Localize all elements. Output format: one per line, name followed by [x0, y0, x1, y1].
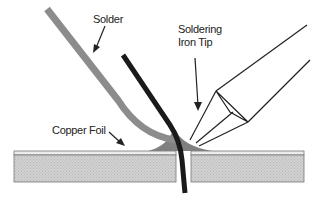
iron-tip-arrow-icon [194, 58, 202, 111]
iron-label-line2: Iron Tip [178, 36, 222, 49]
solder-arrow-icon [93, 26, 105, 53]
solder-wire [47, 9, 175, 140]
copper-foil-label: Copper Foil [52, 124, 106, 137]
iron-label-line1: Soldering [178, 23, 222, 36]
copper-foil-arrow-icon [109, 132, 125, 146]
solder-label: Solder [93, 13, 123, 26]
circuit-board-left [14, 151, 176, 182]
soldering-iron-tip-label: Soldering Iron Tip [178, 23, 222, 49]
soldering-diagram: Solder Soldering Iron Tip Copper Foil [0, 0, 328, 204]
diagram-canvas [0, 0, 328, 204]
circuit-board-right [191, 151, 304, 182]
